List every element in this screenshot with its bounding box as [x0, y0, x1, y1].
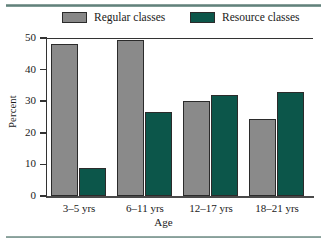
bar-group-container — [46, 38, 313, 196]
bar-regular — [249, 119, 276, 196]
chart-legend: Regular classes Resource classes — [62, 11, 312, 27]
bar-resource — [79, 168, 106, 196]
bar-resource — [211, 95, 238, 196]
legend-label-regular-classes: Regular classes — [94, 11, 165, 23]
bar-group — [48, 38, 110, 196]
bar-group — [246, 38, 308, 196]
teal-swatch-icon — [190, 12, 215, 23]
bar-resource — [145, 112, 172, 196]
y-tick-label: 0 — [10, 190, 36, 201]
plot-wrapper: Percent 01020304050 3–5 yrs6–11 yrs12–17… — [0, 30, 327, 210]
bar-regular — [117, 40, 144, 196]
legend-item-resource-classes: Resource classes — [190, 11, 300, 23]
x-axis-title: Age — [0, 216, 327, 228]
bar-resource — [277, 92, 304, 196]
bar-chart-figure: Regular classes Resource classes Percent… — [0, 0, 327, 246]
legend-label-resource-classes: Resource classes — [222, 11, 300, 23]
y-tick-label: 20 — [10, 127, 36, 138]
bar-group — [180, 38, 242, 196]
x-tick-label: 18–21 yrs — [237, 202, 317, 214]
y-tick-label: 30 — [10, 95, 36, 106]
y-tick-label: 50 — [10, 32, 36, 43]
gray-swatch-icon — [62, 12, 87, 23]
bar-group — [114, 38, 176, 196]
x-axis-line — [46, 196, 314, 198]
top-rule — [6, 4, 321, 7]
legend-item-regular-classes: Regular classes — [62, 11, 165, 23]
y-tick-label: 40 — [10, 64, 36, 75]
bar-regular — [51, 44, 78, 196]
y-tick-label: 10 — [10, 158, 36, 169]
bottom-rule — [6, 236, 321, 238]
bar-regular — [183, 101, 210, 196]
